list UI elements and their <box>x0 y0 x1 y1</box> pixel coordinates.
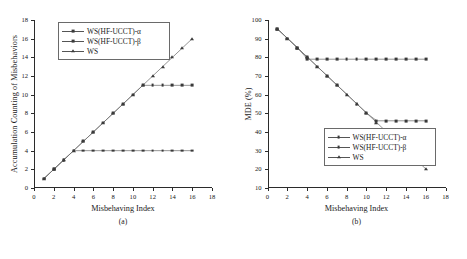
legend-item-beta-a: WS(HF-UCCT)-β <box>62 36 164 46</box>
legend-a: WS(HF-UCCT)-α WS(HF-UCCT)-β WS <box>58 22 170 60</box>
data-point <box>102 149 105 152</box>
data-point <box>325 74 329 77</box>
data-point <box>365 58 368 61</box>
data-point <box>122 149 125 152</box>
data-point <box>345 93 349 96</box>
data-point <box>180 46 184 49</box>
data-point <box>385 58 388 61</box>
legend-label-ws-b: WS <box>350 153 364 162</box>
legend-item-ws-b: WS <box>328 152 430 162</box>
data-point <box>285 37 289 40</box>
data-point <box>141 149 144 152</box>
legend-swatch-beta-b <box>328 143 350 151</box>
data-point <box>161 84 164 87</box>
legend-swatch-beta-a <box>62 37 84 45</box>
data-point <box>424 58 427 61</box>
data-point <box>395 119 398 122</box>
data-point <box>385 119 388 122</box>
subplot-caption-b: (b) <box>268 217 446 226</box>
data-point <box>345 58 348 61</box>
data-point <box>82 149 85 152</box>
data-point <box>91 130 95 133</box>
series-line <box>44 151 192 179</box>
data-point <box>92 149 95 152</box>
data-point <box>171 149 174 152</box>
legend-b: WS(HF-UCCT)-α WS(HF-UCCT)-β WS <box>324 128 436 166</box>
data-point <box>131 93 135 96</box>
legend-swatch-ws-a <box>62 47 84 55</box>
data-point <box>335 58 338 61</box>
data-point <box>355 58 358 61</box>
legend-swatch-alpha-b <box>328 133 350 141</box>
data-point <box>191 149 194 152</box>
data-point <box>305 56 309 59</box>
data-point <box>395 58 398 61</box>
data-point <box>151 74 155 77</box>
data-point <box>161 65 165 68</box>
data-point <box>171 84 174 87</box>
legend-label-beta-b: WS(HF-UCCT)-β <box>350 143 407 152</box>
data-point <box>42 177 46 180</box>
data-point <box>151 84 154 87</box>
data-point <box>424 168 428 171</box>
data-point <box>81 140 85 143</box>
data-point <box>101 121 105 124</box>
data-point <box>72 149 76 152</box>
panel-a: Accumulation Counting of Misbehaviors 02… <box>0 0 234 259</box>
data-point <box>190 37 194 40</box>
data-point <box>161 149 164 152</box>
legend-label-ws-a: WS <box>84 47 98 56</box>
series-line <box>44 85 192 178</box>
legend-item-ws-a: WS <box>62 46 164 56</box>
subplot-caption-a: (a) <box>34 217 212 226</box>
x-axis-label-a: Misbehaving Index <box>34 204 212 213</box>
data-point <box>295 46 299 49</box>
legend-swatch-alpha-a <box>62 27 84 35</box>
data-point <box>375 58 378 61</box>
data-point <box>275 28 279 31</box>
panel-b: MDE (%) 10203040506070809010002468101214… <box>234 0 467 259</box>
data-point <box>424 119 427 122</box>
x-axis-label-b: Misbehaving Index <box>268 204 446 213</box>
data-point <box>121 102 125 105</box>
data-point <box>355 102 359 105</box>
legend-swatch-ws-b <box>328 153 350 161</box>
data-point <box>414 119 417 122</box>
data-point <box>316 58 319 61</box>
data-point <box>131 149 134 152</box>
data-point <box>62 158 66 161</box>
data-point <box>52 168 56 171</box>
data-point <box>191 84 194 87</box>
data-point <box>151 149 154 152</box>
legend-item-alpha-b: WS(HF-UCCT)-α <box>328 132 430 142</box>
data-point <box>112 149 115 152</box>
series-line <box>277 29 425 59</box>
data-point <box>405 119 408 122</box>
legend-item-beta-b: WS(HF-UCCT)-β <box>328 142 430 152</box>
legend-item-alpha-a: WS(HF-UCCT)-α <box>62 26 164 36</box>
data-point <box>325 58 328 61</box>
data-point <box>111 112 115 115</box>
data-point <box>315 65 319 68</box>
data-point <box>141 84 145 87</box>
data-point <box>405 58 408 61</box>
data-point <box>335 84 339 87</box>
legend-label-alpha-a: WS(HF-UCCT)-α <box>84 27 141 36</box>
data-point <box>414 58 417 61</box>
data-point <box>181 84 184 87</box>
data-point <box>364 112 368 115</box>
data-point <box>181 149 184 152</box>
legend-label-alpha-b: WS(HF-UCCT)-α <box>350 133 407 142</box>
figure: Accumulation Counting of Misbehaviors 02… <box>0 0 467 259</box>
legend-label-beta-a: WS(HF-UCCT)-β <box>84 37 141 46</box>
series-line <box>277 29 425 120</box>
data-point <box>374 121 378 124</box>
data-point <box>170 56 174 59</box>
